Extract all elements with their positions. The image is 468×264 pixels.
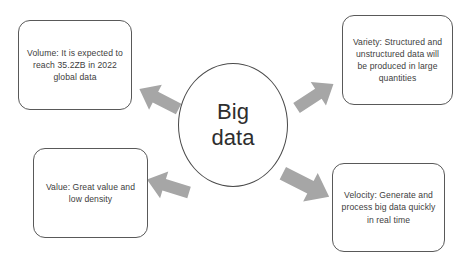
node-volume[interactable]: Volume: It is expected to reach 35.2ZB i…: [18, 20, 132, 110]
node-variety-label: Variety: Structured and unstructured dat…: [350, 36, 445, 85]
node-volume-label: Volume: It is expected to reach 35.2ZB i…: [26, 47, 124, 84]
center-node-big-data[interactable]: Big data: [178, 63, 288, 187]
arrow-to-volume: [133, 77, 185, 122]
node-value[interactable]: Value: Great value and low density: [33, 148, 148, 238]
center-node-label: Big data: [212, 99, 255, 151]
arrow-to-variety: [289, 72, 341, 119]
diagram-canvas: Volume: It is expected to reach 35.2ZB i…: [0, 0, 468, 264]
arrow-to-velocity: [276, 159, 337, 211]
node-velocity[interactable]: Velocity: Generate and process big data …: [332, 163, 445, 252]
node-velocity-label: Velocity: Generate and process big data …: [340, 189, 437, 226]
arrow-to-value: [143, 166, 193, 206]
node-variety[interactable]: Variety: Structured and unstructured dat…: [342, 15, 453, 105]
node-value-label: Value: Great value and low density: [41, 181, 140, 205]
